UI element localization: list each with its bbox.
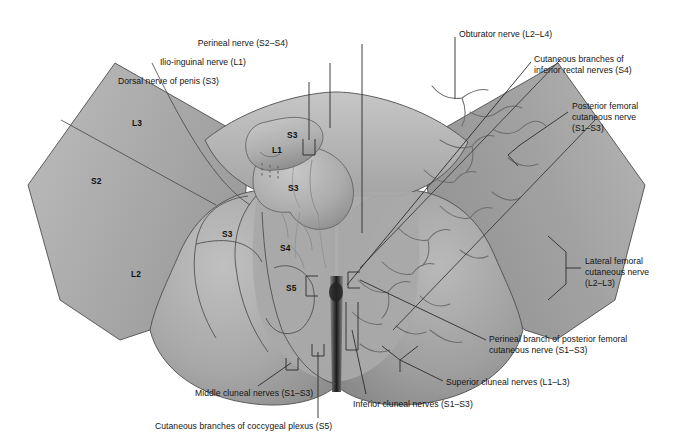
label-perineal-branch-posterior-femoral: Perineal branch of posterior femoral cut… (489, 334, 627, 356)
label-perineal-nerve: Perineal nerve (S2–S4) (0, 38, 288, 49)
label-ilio-inguinal-nerve: Ilio-inguinal nerve (L1) (0, 57, 246, 68)
label-cutaneous-branches-inferior-rectal: Cutaneous branches of inferior rectal ne… (534, 54, 632, 76)
dermatome-l2-left: L2 (131, 269, 141, 279)
dermatome-s2-left: S2 (91, 176, 102, 186)
label-cutaneous-branches-coccygeal-plexus: Cutaneous branches of coccygeal plexus (… (155, 421, 332, 432)
label-dorsal-nerve-of-penis: Dorsal nerve of penis (S3) (0, 76, 219, 87)
dermatome-l3-left: L3 (132, 118, 142, 128)
dermatome-s4: S4 (280, 243, 291, 253)
dermatome-s5: S5 (286, 283, 297, 293)
label-middle-cluneal-nerves: Middle cluneal nerves (S1–S3) (195, 388, 313, 399)
label-inferior-cluneal-nerves: Inferior cluneal nerves (S1–S3) (353, 399, 473, 410)
dermatome-s3-left: S3 (222, 229, 233, 239)
dermatome-l1-penis: L1 (272, 145, 282, 155)
label-superior-cluneal-nerves: Superior cluneal nerves (L1–L3) (446, 377, 570, 388)
anus (329, 282, 343, 302)
label-posterior-femoral-cutaneous-nerve: Posterior femoral cutaneous nerve (S1–S3… (572, 101, 638, 135)
label-lateral-femoral-cutaneous-nerve: Lateral femoral cutaneous nerve (L2–L3) (585, 256, 649, 290)
dermatome-s3-lower: S3 (288, 183, 299, 193)
label-obturator-nerve: Obturator nerve (L2–L4) (459, 29, 552, 40)
dermatome-s3-upper: S3 (287, 130, 298, 140)
